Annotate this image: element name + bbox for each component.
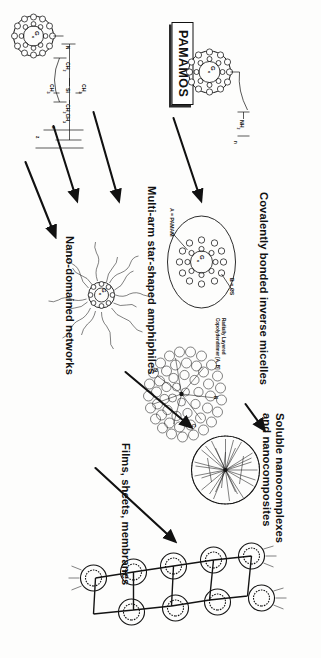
star-arms <box>48 242 154 349</box>
inverse-micelle-beads <box>176 237 226 287</box>
structure-network-sheet <box>68 543 286 625</box>
structure-inverse-micelle <box>167 216 235 308</box>
structure-precursor-silane <box>11 14 83 148</box>
structure-nano-domained-network <box>143 347 226 442</box>
schematic-line-art <box>0 0 321 658</box>
star-core-beads <box>88 282 115 309</box>
arrow-to-nano-domained <box>53 126 75 196</box>
figure-canvas: PAMAMOS Covalently bonded inverse micell… <box>0 0 321 658</box>
arrow-group <box>25 112 261 538</box>
pamamos-schematic: PAMAMOS Covalently bonded inverse micell… <box>0 0 321 658</box>
structure-soluble-nanocomplex <box>191 436 259 504</box>
arrow-to-nanocomplex <box>245 404 261 426</box>
arrow-to-network-sheet <box>25 162 53 232</box>
precursor-amine-beads <box>186 49 232 95</box>
structure-precursor-amine <box>186 49 249 136</box>
arrow-to-star-amphiphiles <box>93 112 117 196</box>
network-sheet-links <box>93 556 251 614</box>
arrow-to-films-sheets <box>95 468 171 538</box>
arrow-to-inverse-micelles <box>173 118 199 196</box>
structure-star-amphiphile <box>48 242 154 349</box>
precursor-silane-beads <box>11 14 55 58</box>
